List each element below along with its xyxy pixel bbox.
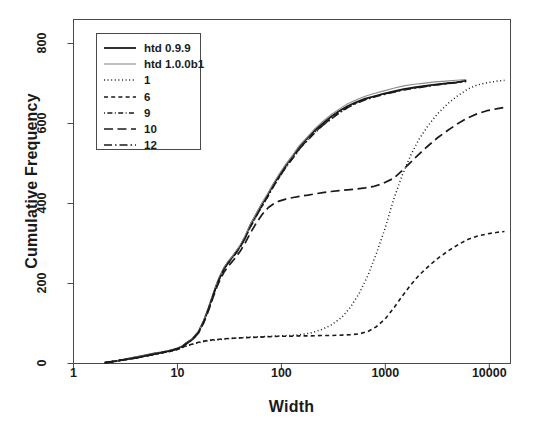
x-tick-label: 10000: [459, 366, 519, 380]
x-tick-label: 1000: [355, 366, 415, 380]
legend-line-sample: [102, 40, 138, 56]
y-tick-label: 600: [35, 103, 49, 143]
legend-line-sample: [102, 72, 138, 88]
y-tick-label: 800: [35, 23, 49, 63]
legend-line-sample: [102, 89, 138, 105]
y-tick-label: 200: [35, 263, 49, 303]
legend-item: 10: [102, 121, 198, 137]
y-tick-label: 400: [35, 183, 49, 223]
x-axis-title: Width: [73, 398, 510, 416]
legend-item-label: 6: [144, 89, 150, 105]
legend-line-sample: [102, 121, 138, 137]
legend-item: htd 0.9.9: [102, 40, 198, 56]
x-tick-label: 100: [251, 366, 311, 380]
cumulative-frequency-chart: Cumulative Frequency Width 0200400600800…: [0, 0, 535, 433]
x-tick-label: 1: [44, 366, 104, 380]
x-tick-label: 10: [147, 366, 207, 380]
legend-item: 12: [102, 137, 198, 153]
legend-line-sample: [102, 137, 138, 153]
legend-item: htd 1.0.0b1: [102, 56, 198, 72]
legend-item: 6: [102, 89, 198, 105]
legend-item-label: 9: [144, 105, 150, 121]
legend: htd 0.9.9htd 1.0.0b11691012: [96, 33, 201, 150]
legend-item: 9: [102, 105, 198, 121]
legend-item: 1: [102, 72, 198, 88]
legend-item-label: htd 1.0.0b1: [144, 56, 204, 72]
legend-item-label: 10: [144, 121, 157, 137]
legend-item-label: htd 0.9.9: [144, 40, 191, 56]
legend-line-sample: [102, 56, 138, 72]
series-line: [105, 232, 505, 363]
legend-item-label: 12: [144, 137, 157, 153]
legend-item-label: 1: [144, 72, 150, 88]
legend-line-sample: [102, 105, 138, 121]
